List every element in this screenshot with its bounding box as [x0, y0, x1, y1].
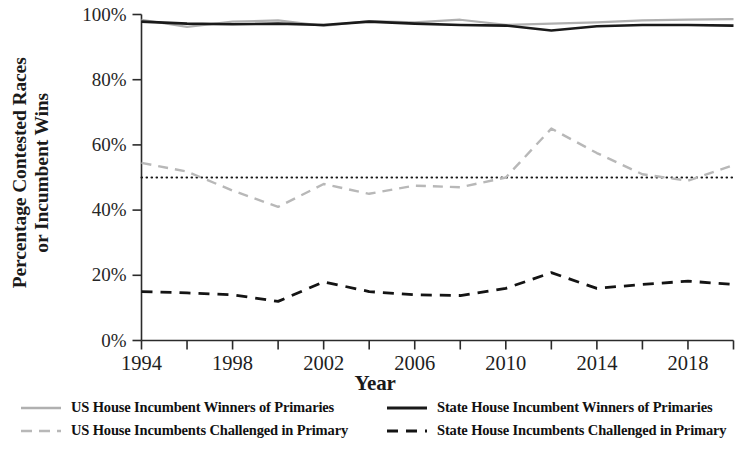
legend-swatch-us-house-challenged: [20, 424, 62, 438]
legend-item-us-house-winners: US House Incumbent Winners of Primaries: [20, 400, 334, 415]
series-line-us-house-challenged: [142, 129, 734, 207]
y-tick-label-60: 60%: [57, 135, 127, 154]
x-axis-title: Year: [0, 371, 750, 396]
legend-swatch-state-house-challenged: [386, 424, 428, 438]
series-line-state-house-challenged: [142, 273, 734, 302]
legend-item-us-house-challenged: US House Incumbents Challenged in Primar…: [20, 423, 348, 438]
legend-label-state-house-challenged: State House Incumbents Challenged in Pri…: [437, 423, 726, 438]
legend-label-us-house-challenged: US House Incumbents Challenged in Primar…: [71, 423, 348, 438]
chart-legend: US House Incumbent Winners of Primaries …: [0, 398, 750, 450]
legend-label-us-house-winners: US House Incumbent Winners of Primaries: [71, 400, 334, 415]
series-line-state-house-winners: [142, 22, 734, 31]
legend-swatch-state-house-winners: [386, 401, 428, 415]
chart-figure: Percentage Contested Races or Incumbent …: [0, 0, 750, 453]
y-tick-label-40: 40%: [57, 200, 127, 219]
legend-swatch-us-house-winners: [20, 401, 62, 415]
axes-lines: [133, 15, 734, 350]
y-tick-label-20: 20%: [57, 265, 127, 284]
y-tick-label-100: 100%: [57, 5, 127, 24]
legend-label-state-house-winners: State House Incumbent Winners of Primari…: [437, 400, 713, 415]
legend-item-state-house-challenged: State House Incumbents Challenged in Pri…: [386, 423, 726, 438]
y-tick-label-0: 0%: [57, 331, 127, 350]
legend-item-state-house-winners: State House Incumbent Winners of Primari…: [386, 400, 713, 415]
y-tick-label-80: 80%: [57, 70, 127, 89]
data-series-group: [142, 19, 734, 301]
